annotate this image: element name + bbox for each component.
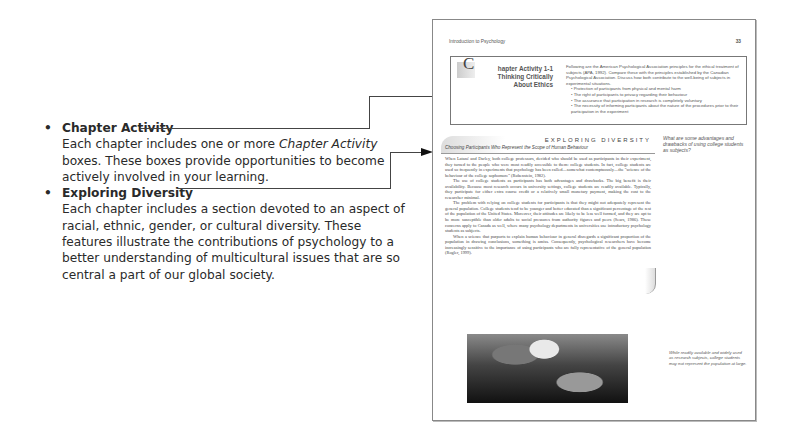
leader-line: [390, 152, 391, 189]
leader-line: [177, 188, 391, 189]
explanation-text: Each chapter includes a section devoted …: [62, 202, 405, 281]
activity-title: C hapter Activity 1-1 Thinking Criticall…: [457, 65, 553, 89]
students-photo: [467, 334, 628, 403]
explanation-title: Exploring Diversity: [62, 186, 193, 200]
exploring-diversity-subtitle: Choosing Participants Who Represent the …: [445, 145, 588, 150]
activity-title-line: About Ethics: [457, 81, 553, 89]
explanation-text: boxes. These boxes provide opportunities…: [62, 154, 384, 184]
running-head: Introduction to Psychology: [449, 39, 505, 44]
explanation-chapter-activity: Chapter Activity Each chapter includes o…: [36, 120, 406, 185]
photo-caption: While readily available and widely used …: [669, 350, 747, 366]
paragraph: The problem with relying on college stud…: [445, 200, 651, 233]
leader-line: [390, 152, 424, 153]
exploring-diversity-header: EXPLORING DIVERSITY Choosing Participant…: [441, 136, 655, 154]
body-text: When Latané and Darley, both college pro…: [445, 156, 651, 256]
textbook-page: Introduction to Psychology 33 C hapter A…: [432, 19, 756, 421]
leader-line: [140, 128, 370, 129]
exploring-diversity-label: EXPLORING DIVERSITY: [545, 137, 651, 143]
drop-cap: C: [457, 62, 475, 78]
leader-line: [369, 96, 370, 129]
explanation-text: Each chapter includes one or more: [62, 137, 279, 151]
chapter-activity-box: C hapter Activity 1-1 Thinking Criticall…: [450, 56, 747, 125]
activity-text: Following are the American Psychological…: [566, 64, 742, 114]
paragraph: The use of college students as participa…: [445, 178, 651, 200]
page-curl-decoration: [645, 268, 656, 294]
paragraph: When a science that purports to explain …: [445, 234, 651, 256]
explanation-exploring-diversity: Exploring Diversity Each chapter include…: [36, 185, 406, 283]
activity-bullet: The necessity of informing participants …: [571, 103, 742, 114]
feature-explanations: Chapter Activity Each chapter includes o…: [36, 120, 406, 283]
page-number: 33: [736, 39, 741, 44]
explanation-text-emphasis: Chapter Activity: [279, 137, 377, 151]
activity-intro: Following are the American Psychological…: [566, 64, 742, 86]
margin-question: What are some advantages and drawbacks o…: [663, 135, 747, 153]
paragraph: When Latané and Darley, both college pro…: [445, 156, 651, 178]
